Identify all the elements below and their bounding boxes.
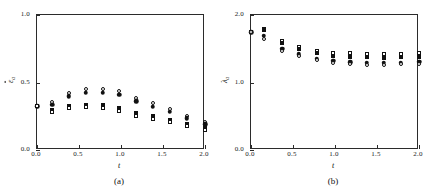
data-point-a-filled-circle-8	[167, 109, 172, 114]
y-axis-title-b-subscript: a	[224, 77, 230, 80]
y-axis-title-a-symbol: ε	[6, 80, 15, 83]
x-tick-b-2	[335, 145, 336, 149]
y-tick-a-2	[36, 15, 40, 16]
x-tick-label-b-0: 0.0	[245, 150, 254, 158]
y-tick-label-b-0: 0.0	[235, 145, 244, 153]
data-point-b-filled-square-6	[348, 55, 352, 59]
y-tick-label-a-0: 0.0	[21, 145, 30, 153]
y-tick-label-b-1: 1.0	[235, 78, 244, 86]
y-axis-title-b-symbol: λ	[220, 80, 229, 83]
data-point-a-open-square-10	[203, 128, 207, 132]
plot-area-a	[36, 14, 204, 149]
data-point-a-filled-circle-7	[151, 105, 156, 110]
y-tick-b-2	[250, 15, 254, 16]
x-tick-label-b-4: 2.0	[413, 150, 422, 158]
data-point-a-open-square-0	[35, 104, 39, 108]
data-point-a-open-square-3	[84, 105, 88, 109]
caption-b: (b)	[328, 176, 339, 186]
figure-container: εa t (a) 0.00.51.01.52.00.00.51.0 λa t (…	[0, 0, 427, 194]
y-tick-label-b-2: 2.0	[235, 10, 244, 18]
x-tick-b-3	[377, 145, 378, 149]
data-point-b-filled-square-7	[365, 55, 369, 59]
data-point-b-filled-square-1	[262, 28, 266, 32]
data-point-b-open-circle-7	[365, 63, 369, 67]
x-tick-label-a-3: 1.5	[157, 150, 166, 158]
x-tick-label-b-3: 1.5	[371, 150, 380, 158]
x-tick-label-a-0: 0.0	[31, 150, 40, 158]
x-tick-a-4	[205, 145, 206, 149]
data-point-a-filled-circle-9	[184, 116, 189, 121]
data-point-a-open-square-2	[67, 106, 71, 110]
data-point-a-open-square-8	[168, 120, 172, 124]
y-axis-title-a: εa	[6, 77, 17, 83]
data-point-a-filled-circle-5	[117, 92, 122, 97]
data-point-a-filled-circle-4	[100, 90, 105, 95]
y-tick-b-1	[250, 83, 254, 84]
data-point-a-filled-circle-3	[83, 90, 88, 95]
data-point-a-open-square-9	[185, 124, 189, 128]
data-point-b-filled-square-10	[417, 55, 421, 59]
data-point-a-filled-circle-1	[50, 103, 55, 108]
x-axis-title-a: t	[118, 161, 120, 170]
data-point-b-open-circle-2	[280, 49, 284, 53]
x-tick-a-1	[79, 145, 80, 149]
y-tick-label-a-1: 0.5	[21, 78, 30, 86]
data-point-b-filled-square-5	[331, 54, 335, 58]
x-tick-label-b-1: 0.5	[287, 150, 296, 158]
data-point-a-open-square-6	[134, 114, 138, 118]
y-tick-a-1	[36, 83, 40, 84]
data-point-b-filled-square-2	[280, 41, 284, 45]
data-point-b-filled-square-9	[399, 55, 403, 59]
data-point-a-filled-circle-6	[134, 99, 139, 104]
x-tick-b-0	[251, 145, 252, 149]
x-tick-label-b-2: 1.0	[329, 150, 338, 158]
data-point-b-filled-square-3	[297, 47, 301, 51]
plot-area-b	[250, 14, 418, 149]
data-point-b-open-circle-10	[417, 62, 421, 66]
x-tick-label-a-4: 2.0	[199, 150, 208, 158]
x-tick-label-a-2: 1.0	[115, 150, 124, 158]
x-tick-b-1	[293, 145, 294, 149]
y-tick-label-a-2: 1.0	[21, 10, 30, 18]
data-point-b-open-circle-4	[315, 58, 319, 62]
caption-a: (a)	[114, 176, 124, 186]
data-point-a-open-square-7	[151, 117, 155, 121]
data-point-b-open-circle-3	[297, 54, 301, 58]
data-point-b-open-circle-6	[348, 62, 352, 66]
y-axis-title-b: λa	[220, 77, 231, 83]
data-point-a-open-square-5	[117, 109, 121, 113]
x-tick-a-0	[37, 145, 38, 149]
x-tick-a-3	[163, 145, 164, 149]
panel-b: λa t (b) 0.00.51.01.52.00.01.02.0	[214, 0, 427, 194]
data-point-b-open-circle-0	[249, 30, 253, 34]
data-point-b-open-circle-8	[382, 63, 386, 67]
panel-a: εa t (a) 0.00.51.01.52.00.00.51.0	[0, 0, 213, 194]
data-point-b-open-circle-5	[331, 61, 335, 65]
data-point-a-open-square-4	[101, 106, 105, 110]
data-point-b-filled-square-8	[382, 56, 386, 60]
x-tick-b-4	[419, 145, 420, 149]
x-tick-a-2	[121, 145, 122, 149]
data-point-b-open-circle-9	[399, 62, 403, 66]
data-point-a-filled-circle-2	[67, 94, 72, 99]
data-point-b-filled-square-4	[315, 51, 319, 55]
x-tick-label-a-1: 0.5	[73, 150, 82, 158]
x-axis-title-b: t	[332, 161, 334, 170]
data-point-a-open-square-1	[50, 110, 54, 114]
data-point-b-open-circle-1	[262, 37, 266, 41]
